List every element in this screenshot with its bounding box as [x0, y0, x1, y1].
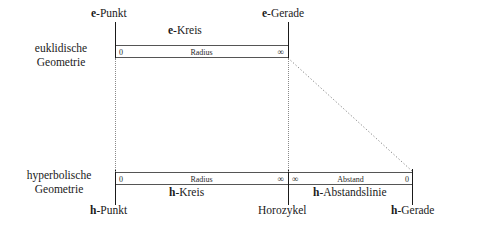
- caption-e-punkt-rest: -Punkt: [96, 7, 127, 19]
- dotted-connector-gerade: [288, 58, 289, 172]
- caption-e-kreis-rest: -Kreis: [173, 24, 202, 36]
- bar-h-abstandslinie-quantity: Abstand: [288, 174, 413, 183]
- dotted-connector-punkt: [115, 58, 116, 172]
- caption-e-gerade-rest: -Gerade: [267, 7, 304, 19]
- row-label-euclidean-line1: euklidische: [12, 42, 110, 56]
- caption-h-abstandslinie-rest: -Abstandslinie: [319, 186, 386, 198]
- bar-h-kreis-right-value: ∞: [278, 174, 284, 183]
- row-label-euclidean-line2: Geometrie: [12, 56, 110, 70]
- tick-e-gerade: [288, 22, 289, 60]
- tick-h-punkt: [115, 169, 116, 205]
- bar-h-abstandslinie: ∞ Abstand 0: [288, 172, 413, 185]
- caption-h-abstandslinie: h-Abstandslinie: [313, 186, 386, 199]
- caption-h-kreis: h-Kreis: [169, 186, 204, 199]
- caption-e-gerade: e-Gerade: [262, 7, 304, 20]
- tick-h-gerade: [412, 169, 413, 205]
- bar-e-kreis: 0 Radius ∞: [115, 45, 288, 58]
- bar-h-kreis: 0 Radius ∞: [115, 172, 288, 185]
- caption-h-gerade-rest: -Gerade: [397, 204, 434, 216]
- caption-h-punkt-rest: -Punkt: [96, 204, 127, 216]
- bar-h-abstandslinie-right-value: 0: [405, 174, 409, 183]
- bar-e-kreis-right-value: ∞: [278, 47, 284, 56]
- geometry-comparison-diagram: euklidische Geometrie hyperbolische Geom…: [0, 0, 501, 230]
- row-label-hyperbolic-line1: hyperbolische: [6, 169, 112, 183]
- caption-h-gerade: h-Gerade: [391, 204, 434, 217]
- caption-horozykel: Horozykel: [258, 204, 307, 217]
- bar-e-kreis-quantity: Radius: [115, 47, 288, 56]
- row-label-euclidean: euklidische Geometrie: [12, 42, 110, 69]
- row-label-hyperbolic: hyperbolische Geometrie: [6, 169, 112, 196]
- tick-horozykel: [288, 169, 289, 205]
- row-label-hyperbolic-line2: Geometrie: [6, 183, 112, 197]
- caption-e-kreis: e-Kreis: [168, 24, 202, 37]
- tick-e-punkt: [115, 22, 116, 60]
- bar-h-kreis-quantity: Radius: [115, 174, 288, 183]
- caption-h-punkt: h-Punkt: [90, 204, 127, 217]
- caption-h-kreis-rest: -Kreis: [175, 186, 204, 198]
- caption-e-punkt: e-Punkt: [91, 7, 127, 20]
